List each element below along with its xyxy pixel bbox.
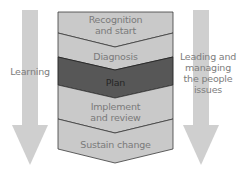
stage-label-line: Diagnosis bbox=[58, 51, 173, 62]
right-arrow-label: Leading and managing the people issues bbox=[174, 51, 242, 95]
stage-label-line: Plan bbox=[58, 77, 173, 88]
stage-label-line: Implement bbox=[58, 101, 173, 112]
stage-label-plan: Plan bbox=[58, 77, 173, 88]
right-label-line: issues bbox=[174, 84, 242, 95]
stage-label-diagnosis: Diagnosis bbox=[58, 51, 173, 62]
stage-label-recognition: Recognition and start bbox=[58, 14, 173, 36]
right-label-line: Leading and bbox=[174, 51, 242, 62]
stage-label-line: Sustain change bbox=[58, 139, 173, 150]
right-label-line: managing bbox=[174, 62, 242, 73]
stage-label-implement: Implement and review bbox=[58, 101, 173, 123]
stage-label-line: and review bbox=[58, 112, 173, 123]
stage-label-line: and start bbox=[58, 25, 173, 36]
stage-label-sustain: Sustain change bbox=[58, 139, 173, 150]
change-process-diagram: Recognition and start Diagnosis Plan Imp… bbox=[0, 0, 243, 178]
stage-label-line: Recognition bbox=[58, 14, 173, 25]
left-arrow-label: Learning bbox=[4, 66, 56, 77]
left-down-arrow-icon bbox=[12, 10, 48, 165]
right-label-line: the people bbox=[174, 73, 242, 84]
